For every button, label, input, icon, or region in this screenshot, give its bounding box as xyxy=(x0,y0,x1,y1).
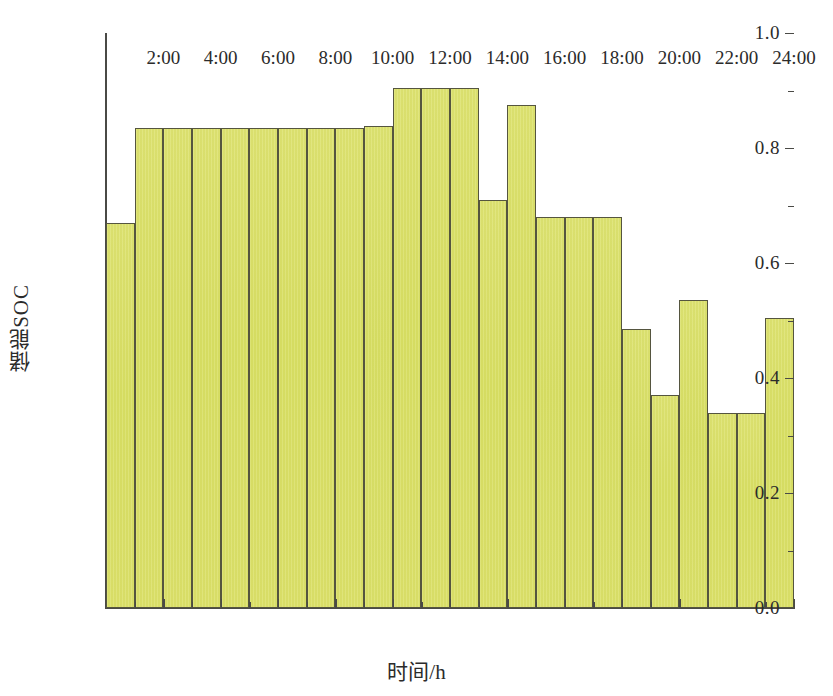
bar xyxy=(737,413,766,609)
x-tick-minor xyxy=(135,602,136,608)
x-tick-major xyxy=(450,599,451,608)
x-tick-major xyxy=(737,599,738,608)
x-tick-major xyxy=(393,599,394,608)
bar xyxy=(507,105,536,608)
x-tick-label: 8:00 xyxy=(318,47,352,69)
bar xyxy=(765,318,794,608)
x-tick-major xyxy=(221,599,222,608)
x-tick-minor xyxy=(536,602,537,608)
bar xyxy=(593,217,622,608)
x-tick-minor xyxy=(307,602,308,608)
plot-area: 0.00.20.40.60.81.0 2:004:006:008:0010:00… xyxy=(106,33,794,608)
y-tick-label: 0.8 xyxy=(755,137,780,159)
y-tick-label: 0.2 xyxy=(755,482,780,504)
bar xyxy=(364,126,393,608)
x-tick-label: 24:00 xyxy=(772,47,815,69)
x-tick-minor xyxy=(765,602,766,608)
bar xyxy=(450,88,479,608)
y-tick-mark xyxy=(785,608,794,609)
bar xyxy=(307,128,336,608)
x-tick-minor xyxy=(593,602,594,608)
x-tick-major xyxy=(679,599,680,608)
x-tick-label: 4:00 xyxy=(204,47,238,69)
bar xyxy=(135,128,164,608)
y-tick-mark xyxy=(785,378,794,379)
bar xyxy=(192,128,221,608)
x-tick-minor xyxy=(651,602,652,608)
x-tick-major xyxy=(163,599,164,608)
bar xyxy=(708,413,737,609)
x-tick-minor xyxy=(364,602,365,608)
bar xyxy=(651,395,680,608)
y-tick-mark xyxy=(785,263,794,264)
y-tick-mark xyxy=(788,91,794,92)
y-tick-mark xyxy=(788,206,794,207)
bar xyxy=(393,88,422,608)
x-tick-label: 20:00 xyxy=(658,47,701,69)
x-tick-label: 14:00 xyxy=(486,47,529,69)
x-tick-minor xyxy=(192,602,193,608)
y-tick-mark xyxy=(788,321,794,322)
x-tick-label: 12:00 xyxy=(428,47,471,69)
y-axis-title: 储能SOC xyxy=(6,0,36,696)
bar xyxy=(278,128,307,608)
x-tick-major xyxy=(622,599,623,608)
x-tick-label: 6:00 xyxy=(261,47,295,69)
bar xyxy=(565,217,594,608)
x-axis-title: 时间/h xyxy=(0,655,833,685)
bar xyxy=(479,200,508,608)
x-tick-label: 22:00 xyxy=(715,47,758,69)
bar xyxy=(679,300,708,608)
x-tick-label: 10:00 xyxy=(371,47,414,69)
x-tick-minor xyxy=(421,602,422,608)
bar xyxy=(536,217,565,608)
y-tick-label: 0.6 xyxy=(755,252,780,274)
x-tick-major xyxy=(794,599,795,608)
y-tick-mark xyxy=(788,551,794,552)
soc-bar-chart-figure: 储能SOC 0.00.20.40.60.81.0 2:004:006:008:0… xyxy=(0,0,833,696)
y-tick-label: 0.0 xyxy=(755,597,780,619)
x-tick-major xyxy=(335,599,336,608)
y-tick-label: 1.0 xyxy=(755,22,780,44)
bar xyxy=(622,329,651,608)
bar xyxy=(335,128,364,608)
y-tick-mark xyxy=(785,33,794,34)
y-tick-mark xyxy=(785,148,794,149)
y-axis-title-text: 储能SOC xyxy=(6,284,36,372)
x-tick-minor xyxy=(708,602,709,608)
y-tick-mark xyxy=(788,436,794,437)
x-tick-minor xyxy=(249,602,250,608)
bar xyxy=(221,128,250,608)
y-tick-mark xyxy=(785,493,794,494)
x-tick-major xyxy=(278,599,279,608)
bar xyxy=(249,128,278,608)
x-tick-label: 16:00 xyxy=(543,47,586,69)
x-tick-minor xyxy=(479,602,480,608)
bar xyxy=(106,223,135,608)
x-tick-major xyxy=(507,599,508,608)
x-tick-label: 18:00 xyxy=(600,47,643,69)
bar-series xyxy=(106,33,794,608)
x-tick-label: 2:00 xyxy=(146,47,180,69)
bar xyxy=(421,88,450,608)
x-tick-major xyxy=(565,599,566,608)
bar xyxy=(163,128,192,608)
y-tick-label: 0.4 xyxy=(755,367,780,389)
